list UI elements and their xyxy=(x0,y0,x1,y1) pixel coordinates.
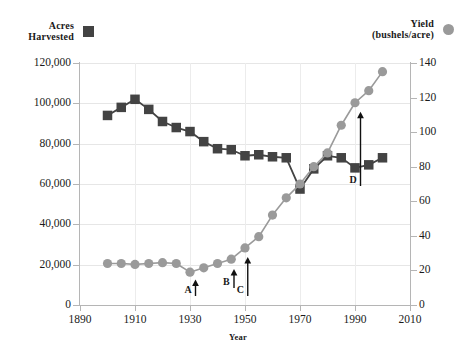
y-axis-right-tick xyxy=(411,98,417,99)
data-point-acres xyxy=(350,163,360,173)
data-point-yield xyxy=(227,255,236,264)
data-point-acres xyxy=(199,137,209,147)
x-axis-title: Year xyxy=(0,332,476,342)
data-point-acres xyxy=(227,145,237,155)
y-axis-right-tick xyxy=(411,305,417,306)
data-point-yield xyxy=(378,67,387,76)
data-point-yield xyxy=(185,268,194,277)
data-point-yield xyxy=(158,258,167,267)
data-point-yield xyxy=(117,259,126,268)
y-axis-left-tick xyxy=(73,265,79,266)
data-point-yield xyxy=(282,193,291,202)
data-point-acres xyxy=(172,123,182,132)
y-axis-left-tick xyxy=(73,63,79,64)
annotation-label-a: A xyxy=(185,284,192,295)
x-axis-tick xyxy=(410,306,411,311)
x-axis-tick xyxy=(80,306,81,311)
y-axis-right-tick xyxy=(411,270,417,271)
y-axis-left-tick xyxy=(73,224,79,225)
data-point-acres xyxy=(117,103,127,113)
x-axis-tick xyxy=(245,306,246,311)
x-axis-tick xyxy=(135,306,136,311)
data-point-yield xyxy=(309,162,318,171)
data-point-yield xyxy=(337,121,346,130)
data-point-acres xyxy=(130,95,140,105)
chart-root: Acres Harvested Yield (bushels/acre) 020… xyxy=(0,0,476,358)
data-point-yield xyxy=(268,211,277,220)
series-line-yield xyxy=(108,72,383,273)
data-point-yield xyxy=(130,260,139,269)
data-point-yield xyxy=(295,179,304,188)
annotation-label-c: C xyxy=(237,284,244,295)
data-point-acres xyxy=(378,153,388,163)
y-axis-right-tick xyxy=(411,167,417,168)
data-point-yield xyxy=(364,86,373,95)
annotation-label-d: D xyxy=(350,174,357,185)
data-point-yield xyxy=(240,243,249,252)
data-point-acres xyxy=(268,152,278,162)
y-axis-left-tick xyxy=(73,103,79,104)
annotation-label-b: B xyxy=(223,276,230,287)
y-axis-right-tick xyxy=(411,132,417,133)
data-point-yield xyxy=(144,259,153,268)
data-point-acres xyxy=(364,160,374,170)
annotation-arrow-head-a xyxy=(192,279,199,286)
y-axis-left-tick xyxy=(73,184,79,185)
x-axis-tick xyxy=(300,306,301,311)
data-point-yield xyxy=(213,259,222,268)
data-point-acres xyxy=(240,151,250,161)
data-point-acres xyxy=(337,153,347,163)
data-point-acres xyxy=(158,117,168,127)
annotation-arrow-head-d xyxy=(357,112,364,119)
data-point-acres xyxy=(213,144,223,154)
y-axis-right-tick xyxy=(411,236,417,237)
x-axis-tick xyxy=(355,306,356,311)
data-point-yield xyxy=(172,259,181,268)
data-point-yield xyxy=(254,232,263,241)
data-point-acres xyxy=(185,127,195,137)
data-point-acres xyxy=(254,150,264,160)
data-point-acres xyxy=(282,153,292,163)
y-axis-left-tick xyxy=(73,144,79,145)
x-axis-tick xyxy=(190,306,191,311)
data-point-acres xyxy=(103,111,113,121)
data-point-yield xyxy=(199,263,208,272)
annotation-arrow-head-b xyxy=(231,269,238,276)
series-layer xyxy=(0,0,476,358)
data-point-acres xyxy=(144,105,154,115)
data-point-yield xyxy=(323,148,332,157)
data-point-yield xyxy=(350,98,359,107)
annotation-arrow-head-c xyxy=(244,257,251,264)
y-axis-right-tick xyxy=(411,63,417,64)
y-axis-right-tick xyxy=(411,201,417,202)
y-axis-left-tick xyxy=(73,305,79,306)
data-point-yield xyxy=(103,259,112,268)
